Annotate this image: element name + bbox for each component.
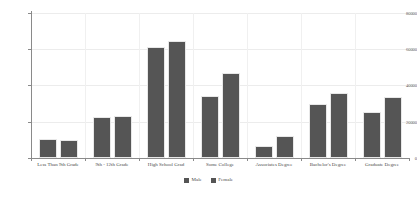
x-tick-mark-7 — [409, 158, 410, 161]
bar-male-some-college[interactable] — [201, 96, 219, 158]
bar-female-associates-degree[interactable] — [276, 136, 294, 158]
legend-item-female[interactable]: Female — [211, 177, 233, 183]
x-label-9th-12th-grade: 9th - 12th Grade — [85, 161, 139, 168]
bar-female-high-school-grad[interactable] — [168, 41, 186, 158]
legend-item-male[interactable]: Male — [184, 177, 202, 183]
bar-female-9th-12th-grade[interactable] — [114, 116, 132, 158]
bar-male-less-than-9th-grade[interactable] — [39, 139, 57, 158]
bar-male-bachelors-degree[interactable] — [309, 104, 327, 158]
bar-male-graduate-degree[interactable] — [363, 112, 381, 158]
bar-female-graduate-degree[interactable] — [384, 97, 402, 158]
x-label-bachelors-degree: Bachelor's Degree — [301, 161, 355, 168]
x-label-graduate-degree: Graduate Degree — [355, 161, 409, 168]
bar-female-bachelors-degree[interactable] — [330, 93, 348, 158]
x-label-high-school-grad: High School Grad — [139, 161, 193, 168]
bar-group-associates-degree — [247, 13, 301, 158]
legend-swatch-male-icon — [184, 178, 189, 183]
bar-group-bachelors-degree — [301, 13, 355, 158]
x-axis-line — [31, 158, 410, 159]
bar-chart-figure: 80000 60000 40000 20000 0 — [0, 0, 417, 199]
bar-group-less-than-9th-grade — [31, 13, 85, 158]
bar-male-associates-degree[interactable] — [255, 146, 273, 158]
chart-legend: Male Female — [0, 177, 417, 183]
x-axis-labels: Less Than 9th Grade 9th - 12th Grade Hig… — [31, 161, 409, 171]
bar-group-9th-12th-grade — [85, 13, 139, 158]
bar-male-9th-12th-grade[interactable] — [93, 117, 111, 158]
bar-female-less-than-9th-grade[interactable] — [60, 140, 78, 158]
caption-sliver — [14, 191, 404, 199]
x-label-associates-degree: Associates Degree — [247, 161, 301, 168]
bar-group-high-school-grad — [139, 13, 193, 158]
x-label-some-college: Some College — [193, 161, 247, 168]
legend-label-female: Female — [218, 177, 233, 183]
bar-female-some-college[interactable] — [222, 73, 240, 158]
legend-label-male: Male — [192, 177, 202, 183]
bar-group-graduate-degree — [355, 13, 409, 158]
bar-group-some-college — [193, 13, 247, 158]
bars-container — [31, 13, 409, 158]
legend-swatch-female-icon — [211, 178, 216, 183]
bar-male-high-school-grad[interactable] — [147, 47, 165, 158]
x-label-less-than-9th-grade: Less Than 9th Grade — [31, 161, 85, 168]
